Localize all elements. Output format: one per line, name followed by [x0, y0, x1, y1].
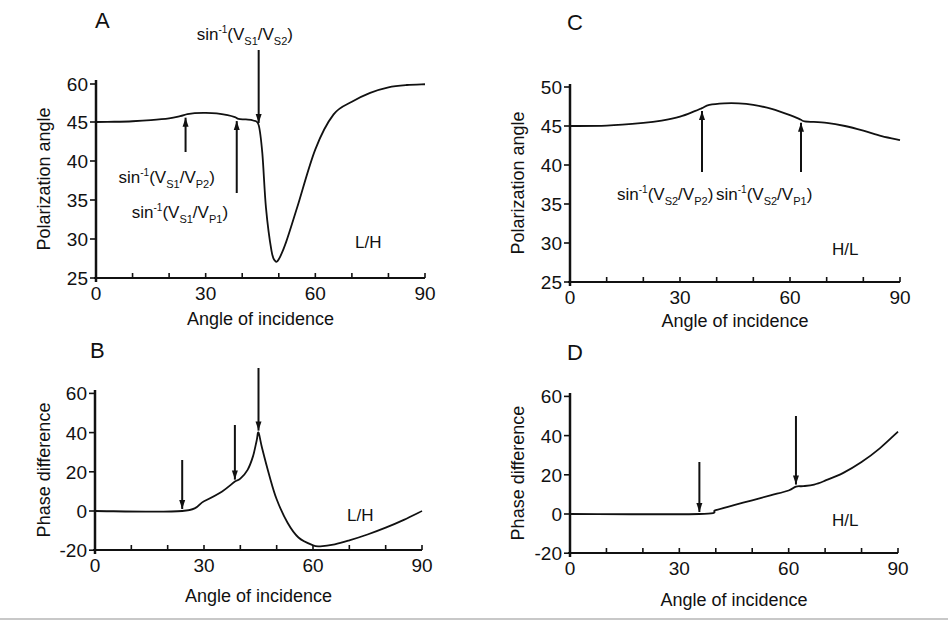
arrow-head-icon	[183, 118, 189, 127]
annotation-subscript: P1	[209, 213, 222, 225]
arrow-head-icon	[179, 500, 185, 509]
y-tick-label: 35	[541, 194, 562, 215]
annotation-close: )	[222, 203, 228, 222]
annotation-func: sin	[617, 185, 639, 204]
annotation-func: sin	[132, 203, 154, 222]
arrow-head-icon	[793, 476, 799, 485]
x-tick-label: 0	[565, 287, 576, 308]
x-tick-label: 90	[414, 283, 435, 304]
arrow-head-icon	[699, 111, 705, 120]
y-tick-label: 25	[541, 272, 562, 293]
x-axis-title: Angle of incidence	[660, 590, 807, 610]
y-tick-label: 45	[541, 116, 562, 137]
annotation-func: sin	[119, 168, 141, 187]
annotation-label: sin-1(VS1/VP2)	[119, 167, 215, 190]
x-tick-label: 60	[302, 555, 323, 576]
y-tick-label: 60	[541, 386, 562, 407]
y-axis-title: Polarization angle	[508, 111, 528, 254]
annotation-open: (V	[149, 168, 167, 187]
x-tick-label: 30	[193, 555, 214, 576]
case-label: H/L	[832, 511, 858, 530]
y-axis-title: Polarization angle	[34, 107, 54, 250]
annotation-slash: /V	[258, 25, 275, 44]
arrow-head-icon	[256, 422, 262, 431]
chart-panel-c: C0306090253035404550Angle of incidencePo…	[508, 10, 911, 331]
y-tick-label: 60	[67, 74, 88, 95]
case-label: L/H	[347, 506, 373, 525]
annotation-slash: /V	[193, 203, 210, 222]
annotation-label: sin-1(VS1/VS2)	[197, 24, 293, 47]
y-tick-label: -20	[535, 543, 562, 564]
annotation-open: (V	[648, 185, 666, 204]
x-tick-label: 90	[889, 287, 910, 308]
annotation-close: )	[287, 25, 293, 44]
annotation-func: sin	[197, 25, 219, 44]
x-tick-label: 90	[887, 558, 908, 579]
annotation-label: sin-1(VS1/VP1)	[132, 202, 228, 225]
annotation-close: )	[209, 168, 215, 187]
annotation-open: (V	[162, 203, 180, 222]
y-tick-label: 40	[66, 423, 87, 444]
footer-divider	[0, 618, 948, 620]
y-tick-label: 25	[67, 268, 88, 289]
y-tick-label: -20	[60, 540, 87, 561]
y-tick-label: 40	[541, 426, 562, 447]
x-axis-title: Angle of incidence	[187, 309, 334, 329]
y-tick-label: 30	[541, 233, 562, 254]
x-axis-title: Angle of incidence	[185, 586, 332, 606]
arrow-head-icon	[798, 123, 804, 132]
y-tick-label: 35	[67, 190, 88, 211]
annotation-subscript: S2	[665, 195, 678, 207]
annotation-slash: /V	[180, 168, 197, 187]
y-tick-label: 40	[67, 151, 88, 172]
y-tick-label: 45	[67, 112, 88, 133]
data-curve	[570, 103, 900, 140]
x-tick-label: 60	[779, 287, 800, 308]
case-label: H/L	[832, 240, 858, 259]
annotation-subscript: S2	[764, 195, 777, 207]
figure: A0306090253035404560Angle of incidencePo…	[0, 0, 948, 636]
x-tick-label: 90	[411, 555, 432, 576]
y-tick-label: 0	[76, 501, 87, 522]
x-tick-label: 0	[90, 555, 101, 576]
panel-letter: B	[90, 338, 105, 363]
y-tick-label: 20	[66, 462, 87, 483]
y-tick-label: 0	[551, 504, 562, 525]
x-tick-label: 0	[91, 283, 102, 304]
annotation-subscript: S1	[244, 35, 257, 47]
x-tick-label: 0	[565, 558, 576, 579]
x-tick-label: 60	[305, 283, 326, 304]
chart-panel-d: D0306090-200204060Angle of incidencePhas…	[508, 340, 909, 610]
y-tick-label: 20	[541, 465, 562, 486]
annotation-close: )	[708, 185, 714, 204]
annotation-close: )	[807, 185, 813, 204]
annotation-subscript: S2	[274, 35, 287, 47]
arrow-head-icon	[234, 121, 240, 130]
y-axis-title: Phase difference	[34, 403, 54, 538]
arrow-head-icon	[696, 503, 702, 512]
annotation-subscript: P2	[694, 195, 707, 207]
annotation-subscript: S1	[179, 213, 192, 225]
x-tick-label: 30	[669, 558, 690, 579]
annotation-slash: /V	[678, 185, 695, 204]
panel-letter: A	[95, 8, 110, 33]
x-tick-label: 60	[778, 558, 799, 579]
y-tick-label: 30	[67, 229, 88, 250]
annotation-subscript: P1	[793, 195, 806, 207]
x-tick-label: 30	[195, 283, 216, 304]
data-curve	[95, 432, 422, 546]
chart-panel-b: B0306090-200204060Angle of incidencePhas…	[34, 338, 433, 606]
annotation-func: sin	[716, 185, 738, 204]
annotation-label: sin-1(VS2/VP2)	[617, 184, 713, 207]
y-axis-title: Phase difference	[508, 406, 528, 541]
panel-letter: C	[567, 10, 583, 35]
chart-panel-a: A0306090253035404560Angle of incidencePo…	[34, 8, 436, 329]
data-curve	[570, 432, 898, 515]
arrow-head-icon	[232, 471, 238, 480]
annotation-subscript: S1	[166, 178, 179, 190]
annotation-open: (V	[227, 25, 245, 44]
x-axis-title: Angle of incidence	[661, 311, 808, 331]
annotation-slash: /V	[777, 185, 794, 204]
x-tick-label: 30	[669, 287, 690, 308]
panel-letter: D	[567, 340, 583, 365]
